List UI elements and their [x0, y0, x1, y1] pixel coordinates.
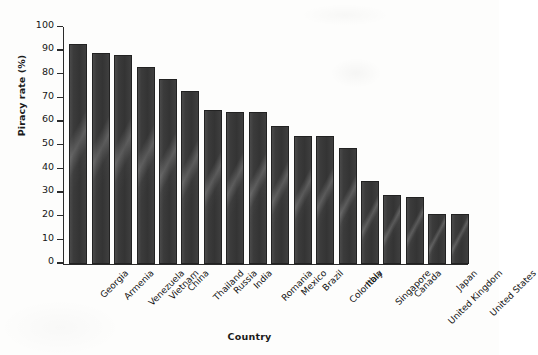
bar [92, 53, 110, 264]
x-axis-title: Country [0, 331, 499, 342]
y-tick: 10 [57, 239, 63, 240]
y-axis-title: Piracy rate (%) [16, 31, 27, 161]
y-tick-label: 80 [42, 66, 54, 78]
bar [294, 136, 312, 264]
scan-artifact [300, 4, 390, 26]
plot-area: 0102030405060708090100 [63, 27, 468, 265]
bar-series [64, 27, 468, 264]
bar [226, 112, 244, 263]
bar [339, 148, 357, 264]
bar [383, 195, 401, 264]
y-tick: 30 [57, 191, 63, 192]
y-tick-label: 40 [42, 161, 54, 173]
bar [181, 91, 199, 264]
y-tick: 90 [57, 49, 63, 50]
bar [204, 110, 222, 264]
bar [316, 136, 334, 264]
y-tick: 70 [57, 97, 63, 98]
bar [159, 79, 177, 264]
y-tick-label: 10 [42, 232, 54, 244]
y-tick-label: 0 [48, 255, 54, 267]
bar [451, 214, 469, 264]
y-tick-label: 20 [42, 208, 54, 220]
y-tick: 40 [57, 168, 63, 169]
bar [428, 214, 446, 264]
y-tick-label: 90 [42, 42, 54, 54]
y-tick-label: 50 [42, 137, 54, 149]
y-tick: 60 [57, 120, 63, 121]
bar [361, 181, 379, 264]
y-tick: 20 [57, 215, 63, 216]
bar [114, 55, 132, 263]
y-tick: 80 [57, 73, 63, 74]
y-tick-label: 60 [42, 113, 54, 125]
x-axis-line [63, 264, 468, 265]
bar [137, 67, 155, 263]
y-tick-label: 30 [42, 184, 54, 196]
y-tick: 50 [57, 144, 63, 145]
bar [406, 197, 424, 263]
y-tick-label: 100 [36, 19, 54, 31]
bar [69, 44, 87, 264]
y-tick: 0 [57, 262, 63, 263]
y-tick: 100 [57, 26, 63, 27]
bar [249, 112, 267, 263]
bar [271, 126, 289, 263]
y-tick-label: 70 [42, 90, 54, 102]
